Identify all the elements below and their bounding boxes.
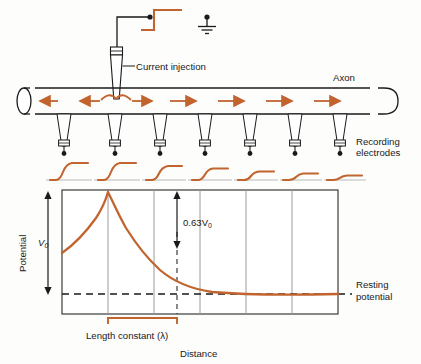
current-flow-arrows	[40, 95, 340, 101]
recording-electrodes-label-line1: Recording	[356, 136, 400, 147]
pipette-shaft	[111, 55, 123, 99]
response-trace-1	[50, 163, 88, 180]
response-trace-7	[327, 176, 362, 181]
resting-potential-label-line2: potential	[356, 291, 392, 302]
distance-axis-label: Distance	[180, 348, 217, 359]
current-step-pulse-trace	[141, 10, 182, 30]
length-constant-bracket	[108, 318, 177, 324]
response-trace-3	[146, 166, 182, 180]
response-trace-6	[283, 174, 318, 181]
recording-electrode-1	[57, 114, 71, 156]
axon-label: Axon	[333, 72, 355, 83]
stimulator-circuit	[117, 10, 216, 47]
stimulator-right-terminal	[204, 14, 209, 19]
recording-electrode-4	[198, 114, 212, 156]
recording-electrode-6	[288, 114, 302, 156]
recording-electrodes-group: Recording electrodes	[57, 114, 400, 158]
recording-electrode-3	[153, 114, 167, 156]
recording-electrode-2	[108, 114, 122, 156]
resting-potential-label-line1: Resting	[356, 279, 389, 290]
response-trace-5	[238, 172, 274, 181]
current-injection-pipette: Current injection	[111, 47, 206, 99]
response-trace-2	[98, 163, 136, 180]
length-constant-label: Length constant (λ)	[86, 330, 168, 341]
recording-electrodes-label-line2: electrodes	[356, 147, 400, 158]
axon-left-cut-end	[17, 88, 31, 114]
potential-vs-distance-plot: Potential V0 0.63V0 Resting potential Le…	[17, 190, 392, 359]
axon-right-end	[384, 88, 398, 114]
recording-electrode-5	[243, 114, 257, 156]
stimulator-left-terminal	[147, 14, 152, 19]
ground-icon	[198, 27, 216, 34]
v0-label: V0	[38, 237, 48, 249]
response-trace-4	[192, 169, 228, 181]
axon-diagram: Axon	[17, 72, 398, 114]
recording-electrode-7	[333, 114, 347, 156]
potential-axis-label: Potential	[17, 235, 28, 272]
recorded-response-traces	[46, 163, 366, 180]
axon-length-constant-figure: Current injection Axon	[0, 0, 421, 364]
current-injection-label: Current injection	[136, 61, 206, 72]
stimulator-left-wire	[117, 17, 150, 47]
annotation-063v0-label: 0.63V0	[183, 217, 212, 229]
